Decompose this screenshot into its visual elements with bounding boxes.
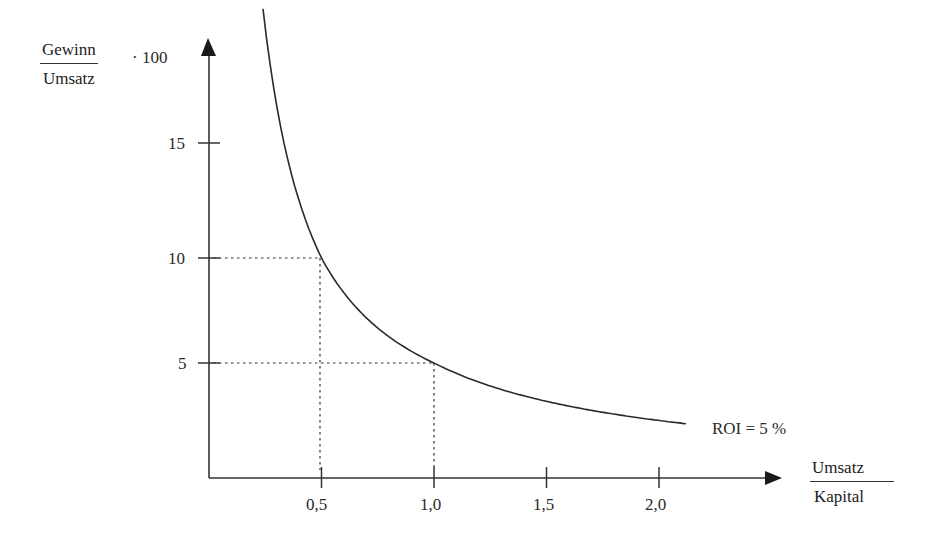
y-axis-arrow-icon: [201, 38, 216, 56]
x-tick-label-2-0: 2,0: [645, 496, 666, 513]
dotted-guides: [213, 258, 434, 470]
roi-chart: [0, 0, 929, 534]
curve-label: ROI = 5 %: [712, 420, 786, 437]
x-tick-label-1-5: 1,5: [533, 496, 554, 513]
x-label-denominator: Kapital: [810, 482, 894, 507]
x-axis-arrow-icon: [765, 471, 782, 485]
y-label-denominator: Umsatz: [40, 64, 98, 89]
x-axis-label: Umsatz Kapital: [810, 458, 894, 507]
x-tick-label-0-5: 0,5: [306, 496, 327, 513]
y-label-multiplier: · 100: [132, 49, 167, 66]
roi-curve: [263, 9, 686, 424]
x-label-numerator: Umsatz: [810, 458, 894, 482]
y-tick-label-15: 15: [168, 135, 185, 152]
x-tick-label-1-0: 1,0: [420, 496, 441, 513]
y-tick-label-10: 10: [168, 250, 185, 267]
y-label-numerator: Gewinn: [40, 40, 98, 64]
y-axis-label: Gewinn Umsatz: [40, 40, 98, 89]
y-tick-label-5: 5: [178, 355, 187, 372]
